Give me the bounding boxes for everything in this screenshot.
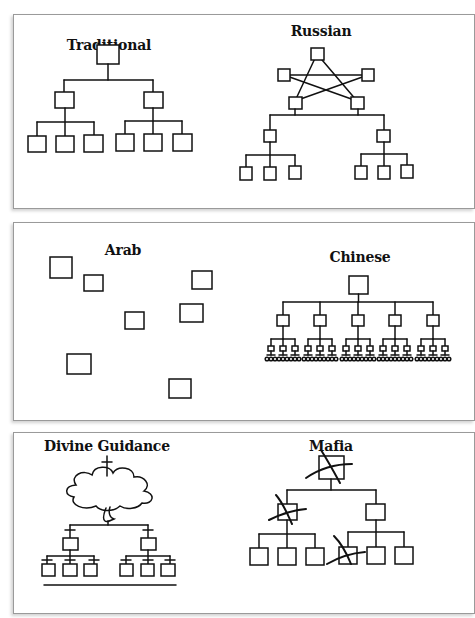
traditional-chart — [28, 45, 192, 152]
org-charts-arab-chinese — [14, 223, 474, 420]
panel-arab-chinese: Arab Chinese — [13, 222, 475, 421]
mafia-chart — [250, 450, 413, 565]
divine-guidance-chart — [42, 456, 176, 585]
russian-chart — [240, 48, 413, 180]
cropped-heading-strip — [0, 0, 469, 12]
chinese-chart — [265, 276, 451, 361]
panel-traditional-russian: Traditional Russian — [13, 14, 475, 209]
org-charts-divine-mafia — [14, 433, 474, 613]
panel-divine-mafia: Divine Guidance Mafia — [13, 432, 475, 614]
cross-icon — [102, 456, 112, 476]
cloud-icon — [67, 467, 152, 510]
arab-chart — [50, 257, 212, 398]
org-charts-traditional-russian — [14, 15, 474, 208]
